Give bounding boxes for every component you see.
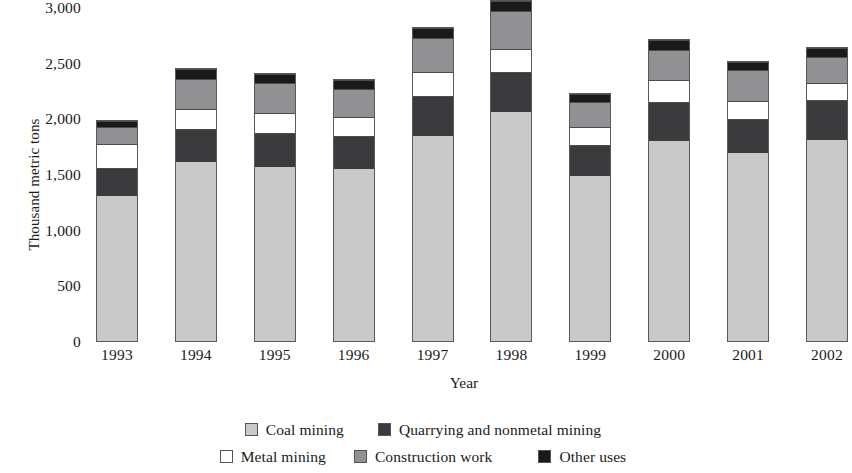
bar-segment-coal-mining — [97, 196, 137, 341]
bar-segment-construction-work — [255, 83, 295, 113]
bar-segment-coal-mining — [807, 140, 847, 342]
bar-segment-coal-mining — [334, 169, 374, 341]
x-axis-tick-1998: 1998 — [481, 346, 541, 364]
bar-segment-metal-mining — [570, 127, 610, 145]
bar-segment-construction-work — [728, 70, 768, 100]
legend-swatch-other-uses — [538, 450, 551, 463]
x-axis-tick-2000: 2000 — [639, 346, 699, 364]
y-axis-tick-1000: 1,000 — [45, 222, 81, 240]
legend-label-other-uses: Other uses — [559, 448, 626, 466]
legend-item-metal-mining[interactable]: Metal mining — [220, 448, 326, 466]
legend-row-bottom: Metal mining Construction work Other use… — [0, 443, 846, 470]
bar-segment-construction-work — [491, 11, 531, 49]
bar-segment-construction-work — [97, 127, 137, 144]
bar-1994[interactable] — [175, 68, 217, 342]
bar-2000[interactable] — [648, 39, 690, 342]
x-axis-tick-1996: 1996 — [324, 346, 384, 364]
bar-1996[interactable] — [333, 79, 375, 342]
bar-segment-metal-mining — [176, 109, 216, 128]
bar-1995[interactable] — [254, 73, 296, 342]
legend-label-metal-mining: Metal mining — [241, 448, 326, 466]
bar-segment-construction-work — [334, 89, 374, 117]
bar-segment-construction-work — [570, 102, 610, 128]
bar-segment-metal-mining — [334, 117, 374, 135]
bar-segment-quarrying-and-nonmetal-mining — [649, 102, 689, 140]
y-axis-tick-2000: 2,000 — [45, 110, 81, 128]
legend-label-quarrying-and-nonmetal-mining: Quarrying and nonmetal mining — [399, 421, 601, 439]
bar-segment-metal-mining — [97, 144, 137, 168]
bar-segment-metal-mining — [413, 72, 453, 96]
bar-segment-coal-mining — [491, 112, 531, 341]
bar-segment-metal-mining — [807, 83, 847, 100]
bar-1999[interactable] — [569, 93, 611, 342]
legend-swatch-quarrying-and-nonmetal-mining — [378, 423, 391, 436]
y-axis-tick-3000: 3,000 — [45, 0, 81, 17]
bar-group — [88, 8, 840, 342]
x-axis-tick-labels: 1993199419951996199719981999200020012002 — [88, 346, 840, 370]
bar-segment-quarrying-and-nonmetal-mining — [255, 133, 295, 168]
bar-segment-quarrying-and-nonmetal-mining — [176, 129, 216, 162]
bar-segment-coal-mining — [255, 167, 295, 341]
bar-2002[interactable] — [806, 47, 848, 342]
bar-segment-metal-mining — [728, 101, 768, 120]
bar-segment-other-uses — [176, 69, 216, 79]
bar-1993[interactable] — [96, 120, 138, 342]
x-axis-tick-1994: 1994 — [166, 346, 226, 364]
legend-label-coal-mining: Coal mining — [266, 421, 344, 439]
x-axis-tick-1993: 1993 — [87, 346, 147, 364]
bar-segment-other-uses — [334, 80, 374, 89]
legend-item-other-uses[interactable]: Other uses — [538, 448, 626, 466]
bar-segment-other-uses — [728, 62, 768, 70]
legend-swatch-construction-work — [354, 450, 367, 463]
bar-segment-quarrying-and-nonmetal-mining — [807, 100, 847, 140]
legend-item-construction-work[interactable]: Construction work — [354, 448, 493, 466]
legend-swatch-coal-mining — [245, 423, 258, 436]
bar-segment-other-uses — [97, 121, 137, 128]
x-axis-tick-1995: 1995 — [245, 346, 305, 364]
bar-1998[interactable] — [490, 0, 532, 342]
bar-segment-metal-mining — [255, 113, 295, 132]
x-axis-tick-2002: 2002 — [797, 346, 852, 364]
bar-segment-quarrying-and-nonmetal-mining — [413, 96, 453, 136]
legend-swatch-metal-mining — [220, 450, 233, 463]
bar-segment-other-uses — [570, 94, 610, 102]
y-axis-tick-0: 0 — [73, 333, 81, 351]
y-axis-tick-1500: 1,500 — [45, 166, 81, 184]
bar-segment-coal-mining — [413, 136, 453, 341]
plot-area: 05001,0001,5002,0002,5003,000 — [88, 8, 840, 342]
bar-1997[interactable] — [412, 27, 454, 342]
x-axis-title: Year — [88, 374, 840, 392]
bar-segment-other-uses — [491, 1, 531, 11]
legend-item-quarrying-and-nonmetal-mining[interactable]: Quarrying and nonmetal mining — [378, 421, 601, 439]
bar-segment-other-uses — [413, 28, 453, 38]
legend-label-construction-work: Construction work — [375, 448, 493, 466]
legend-item-coal-mining[interactable]: Coal mining — [245, 421, 344, 439]
x-axis-tick-1997: 1997 — [403, 346, 463, 364]
x-axis-tick-1999: 1999 — [560, 346, 620, 364]
bar-segment-quarrying-and-nonmetal-mining — [570, 145, 610, 176]
bar-segment-quarrying-and-nonmetal-mining — [728, 119, 768, 153]
bar-segment-construction-work — [649, 50, 689, 80]
x-axis-tick-2001: 2001 — [718, 346, 778, 364]
bar-segment-construction-work — [807, 57, 847, 83]
bar-segment-coal-mining — [649, 141, 689, 341]
bar-segment-coal-mining — [176, 162, 216, 341]
bar-segment-construction-work — [413, 38, 453, 72]
bar-segment-construction-work — [176, 79, 216, 109]
bar-segment-quarrying-and-nonmetal-mining — [491, 72, 531, 112]
bar-segment-quarrying-and-nonmetal-mining — [334, 136, 374, 169]
bar-segment-metal-mining — [491, 49, 531, 72]
bar-segment-quarrying-and-nonmetal-mining — [97, 168, 137, 196]
y-axis-tick-2500: 2,500 — [45, 55, 81, 73]
bar-segment-other-uses — [807, 48, 847, 57]
bar-2001[interactable] — [727, 61, 769, 342]
bar-segment-other-uses — [649, 40, 689, 50]
bar-segment-other-uses — [255, 74, 295, 83]
y-axis-title: Thousand metric tons — [26, 55, 43, 315]
y-axis-tick-500: 500 — [57, 277, 81, 295]
legend-row-top: Coal mining Quarrying and nonmetal minin… — [0, 416, 846, 443]
legend: Coal mining Quarrying and nonmetal minin… — [0, 416, 846, 470]
bar-segment-metal-mining — [649, 80, 689, 102]
bar-segment-coal-mining — [570, 176, 610, 341]
